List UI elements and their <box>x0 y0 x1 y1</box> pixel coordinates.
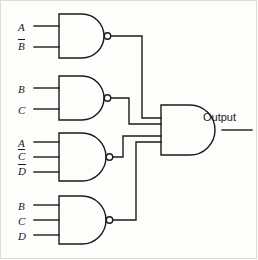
gate-nand-2 <box>34 76 111 120</box>
gate-nand-3-inversion-bubble <box>106 154 112 160</box>
gate-nand-1 <box>34 14 111 58</box>
input-label-g1-in2: B <box>18 39 25 52</box>
wire-nand1-to-and <box>111 36 161 118</box>
input-label-g3-in3: D <box>18 164 26 177</box>
gate-nand-4-inversion-bubble <box>106 217 112 223</box>
circuit-diagram-page: A B B C A C D B C D Output <box>0 0 258 260</box>
input-label-g4-in1: B <box>18 199 25 212</box>
input-label-g4-in2: C <box>18 214 25 227</box>
gate-nand-1-body <box>59 14 104 58</box>
input-label-g1-in1: A <box>18 20 25 33</box>
logic-circuit-svg <box>0 0 258 260</box>
wire-nand2-to-and <box>111 98 161 124</box>
input-label-g4-in3: D <box>18 229 26 242</box>
wire-nand4-to-and <box>113 142 161 220</box>
input-label-g3-in1: A <box>18 136 25 149</box>
wire-nand3-to-and <box>113 136 161 157</box>
input-label-g2-in1: B <box>18 82 25 95</box>
gate-nand-3-body <box>59 133 106 181</box>
output-label: Output <box>203 111 236 123</box>
gate-nand-4-body <box>59 196 106 244</box>
input-label-g3-in2: C <box>18 149 25 162</box>
gate-nand-1-inversion-bubble <box>104 33 110 39</box>
gate-nand-2-inversion-bubble <box>104 95 110 101</box>
gate-nand-4 <box>34 196 113 244</box>
gate-nand-3 <box>34 133 113 181</box>
gate-nand-2-body <box>59 76 104 120</box>
input-label-g2-in2: C <box>18 103 25 116</box>
